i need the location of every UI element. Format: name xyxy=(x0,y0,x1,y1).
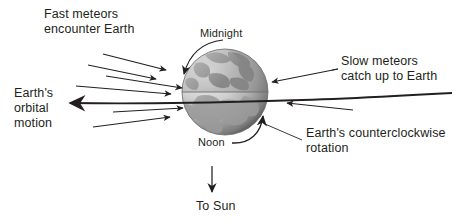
label-earth-orbital-line3: motion xyxy=(14,116,52,130)
fast-meteor-arrows xyxy=(76,54,182,94)
label-earth-orbital-line1: Earth's xyxy=(14,86,53,100)
label-fast-meteors-line1: Fast meteors xyxy=(44,7,118,21)
lower-left-meteor-arrow-1 xyxy=(113,108,183,112)
label-slow-meteors-line1: Slow meteors xyxy=(341,54,418,68)
fast-meteor-arrow-3 xyxy=(106,76,182,88)
fast-meteor-arrow-1 xyxy=(103,54,166,70)
fast-meteor-arrow-2 xyxy=(88,65,156,79)
label-earth-rotation: Earth's counterclockwiserotation xyxy=(306,126,446,156)
label-noon: Noon xyxy=(198,136,225,149)
rotation-leader-line xyxy=(265,124,302,140)
meteor-diagram: Fast meteorsencounter Earth Earth'sorbit… xyxy=(0,0,461,223)
lower-left-meteor-arrow-2 xyxy=(93,117,170,127)
fast-meteor-arrow-4 xyxy=(76,86,171,94)
slow-meteor-arrow-1 xyxy=(272,69,338,82)
label-to-sun: To Sun xyxy=(196,199,236,214)
label-earth-orbital-motion: Earth'sorbitalmotion xyxy=(14,86,53,131)
label-earth-orbital-line2: orbital xyxy=(14,101,49,115)
label-fast-meteors-line2: encounter Earth xyxy=(44,22,134,36)
slow-meteor-arrow-2 xyxy=(287,103,353,110)
label-fast-meteors: Fast meteorsencounter Earth xyxy=(44,7,134,37)
label-slow-meteors: Slow meteorscatch up to Earth xyxy=(341,54,437,84)
label-slow-meteors-line2: catch up to Earth xyxy=(341,69,437,83)
slow-meteors-leader-line xyxy=(332,69,338,70)
label-midnight: Midnight xyxy=(200,27,242,40)
earth-globe xyxy=(178,45,272,135)
label-rotation-line1: Earth's counterclockwise xyxy=(306,126,446,140)
label-rotation-line2: rotation xyxy=(306,141,349,155)
lower-left-meteor-arrows xyxy=(93,108,183,127)
